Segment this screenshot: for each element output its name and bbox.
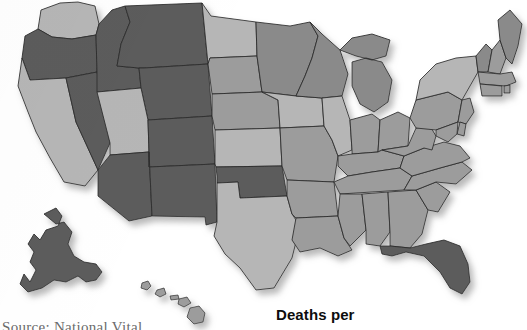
state-ri — [504, 85, 510, 93]
state-ma — [478, 72, 516, 86]
state-sd — [208, 56, 262, 94]
state-ar — [287, 180, 338, 218]
map-source-note: Source: National Vital — [2, 319, 302, 330]
state-al — [362, 192, 390, 246]
state-ks — [215, 128, 282, 167]
state-wy — [139, 64, 212, 120]
map-svg — [0, 0, 527, 330]
us-choropleth-map — [0, 0, 527, 330]
figure-page: Deaths per Source: National Vital — [0, 0, 527, 330]
state-co — [148, 116, 215, 167]
state-mt — [117, 3, 208, 68]
state-ne — [212, 92, 280, 130]
state-wa — [38, 2, 99, 39]
state-ct — [480, 84, 502, 96]
state-in — [350, 114, 380, 154]
state-hi-molokai — [170, 295, 179, 300]
